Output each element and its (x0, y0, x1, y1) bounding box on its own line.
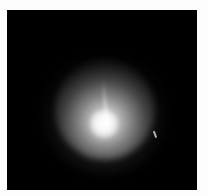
bright-core (90, 110, 118, 138)
image-frame (7, 10, 197, 190)
